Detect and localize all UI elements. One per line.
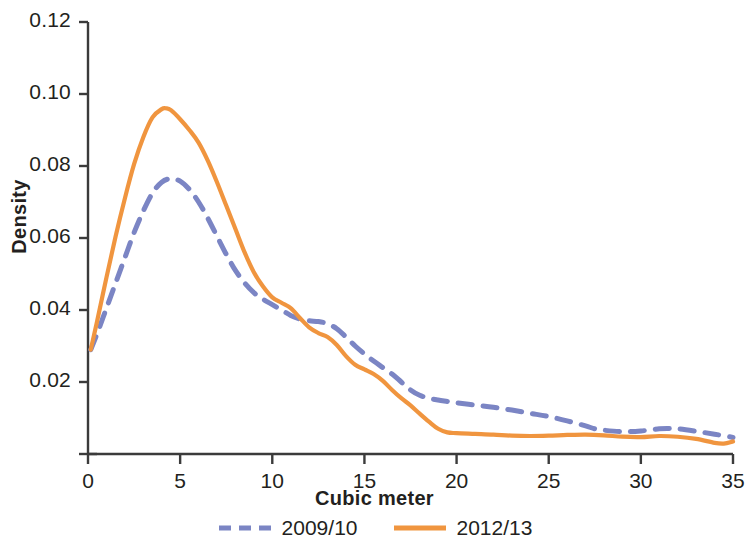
chart-legend: 2009/10 2012/13 [0,516,749,540]
y-tick-label: 0.02 [0,368,71,392]
legend-label-2009-10: 2009/10 [282,516,358,540]
legend-swatch-dashed-icon [217,523,273,533]
density-chart: 0.020.040.060.080.100.12 05101520253035 … [0,0,749,543]
legend-swatch-solid-icon [392,523,448,533]
series-layer [91,108,733,444]
y-axis-title: Density [8,177,31,257]
legend-label-2012-13: 2012/13 [457,516,533,540]
y-tick-label: 0.12 [0,8,71,32]
legend-entry-2009-10: 2009/10 [217,516,358,540]
y-tick-label: 0.04 [0,296,71,320]
y-tick-label: 0.08 [0,152,71,176]
y-tick-label: 0.10 [0,80,71,104]
legend-entry-2012-13: 2012/13 [392,516,533,540]
axis-layer [79,22,733,464]
plot-area [0,0,749,543]
x-axis-title: Cubic meter [0,487,749,510]
series-line-2009-10 [91,179,733,438]
